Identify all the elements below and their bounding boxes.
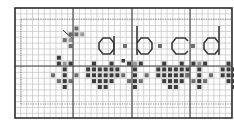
stitch-chart — [0, 0, 234, 131]
stitch-cells — [51, 26, 234, 89]
